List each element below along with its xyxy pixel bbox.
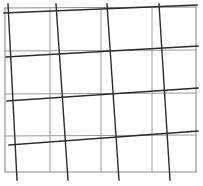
grid-figure <box>0 0 203 186</box>
figure-canvas <box>0 0 203 186</box>
